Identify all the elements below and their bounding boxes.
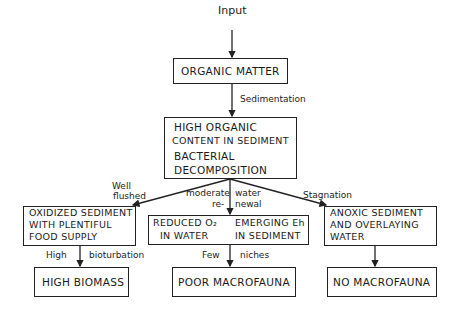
in-sediment-text: IN SEDIMENT — [235, 229, 301, 243]
oxidized-sediment-box: OXIDIZED SEDIMENT WITH PLENTIFUL FOOD SU… — [23, 206, 136, 246]
water-text: WATER — [330, 230, 365, 244]
in-water-text: IN WATER — [160, 229, 208, 243]
water-label: water — [235, 188, 261, 198]
high-biomass-box: HIGH BIOMASS — [34, 267, 129, 297]
emerging-eh-text: EMERGING Eh — [235, 216, 305, 230]
decomposition-text: DECOMPOSITION — [174, 163, 267, 177]
organic-matter-text: ORGANIC MATTER — [181, 64, 280, 78]
content-in-sediment-text: CONTENT IN SEDIMENT — [172, 134, 289, 148]
high-label: High — [46, 250, 67, 260]
niches-label: niches — [240, 250, 269, 260]
reduced-o2-text: REDUCED O₂ — [153, 216, 217, 230]
high-biomass-text: HIGH BIOMASS — [42, 275, 124, 289]
re-label: re- — [212, 199, 224, 209]
flushed-label: flushed — [113, 191, 146, 201]
well-label: Well — [112, 181, 131, 191]
poor-macrofauna-text: POOR MACROFAUNA — [178, 275, 290, 289]
poor-macrofauna-box: POOR MACROFAUNA — [172, 267, 296, 297]
high-organic-box: HIGH ORGANIC CONTENT IN SEDIMENT BACTERI… — [164, 117, 297, 179]
input-label: Input — [218, 4, 246, 17]
no-macrofauna-box: NO MACROFAUNA — [327, 267, 437, 297]
sedimentation-label: Sedimentation — [240, 94, 306, 104]
newal-label: newal — [235, 199, 262, 209]
stagnation-label: Stagnation — [303, 190, 352, 200]
food-supply-text: FOOD SUPPLY — [29, 230, 97, 244]
no-macrofauna-text: NO MACROFAUNA — [333, 275, 430, 289]
bacterial-text: BACTERIAL — [174, 149, 235, 163]
reduced-emerging-box: REDUCED O₂ IN WATER EMERGING Eh IN SEDIM… — [148, 215, 309, 245]
bioturbation-label: bioturbation — [89, 250, 144, 260]
organic-matter-box: ORGANIC MATTER — [173, 58, 288, 84]
high-organic-text: HIGH ORGANIC — [174, 120, 257, 134]
moderate-label: moderate — [186, 188, 230, 198]
anoxic-sediment-box: ANOXIC SEDIMENT AND OVERLAYING WATER — [324, 206, 437, 246]
few-label: Few — [202, 250, 220, 260]
